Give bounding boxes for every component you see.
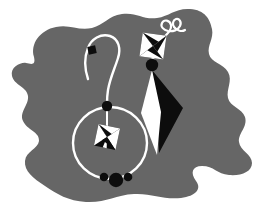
pinwheel-star-ornament-hoop [94,124,120,150]
square-bead [87,45,96,54]
illustration-canvas [0,0,261,219]
artboard: Two decorative earrings rendered in blac… [0,0,261,219]
pinwheel-star-ornament-pendant [139,32,166,59]
bead-small-left [100,173,109,182]
bead-large-center [109,173,123,187]
pendant-top-bead [146,59,158,71]
hoop-top-bead [102,101,112,111]
bead-small-right [124,173,133,182]
